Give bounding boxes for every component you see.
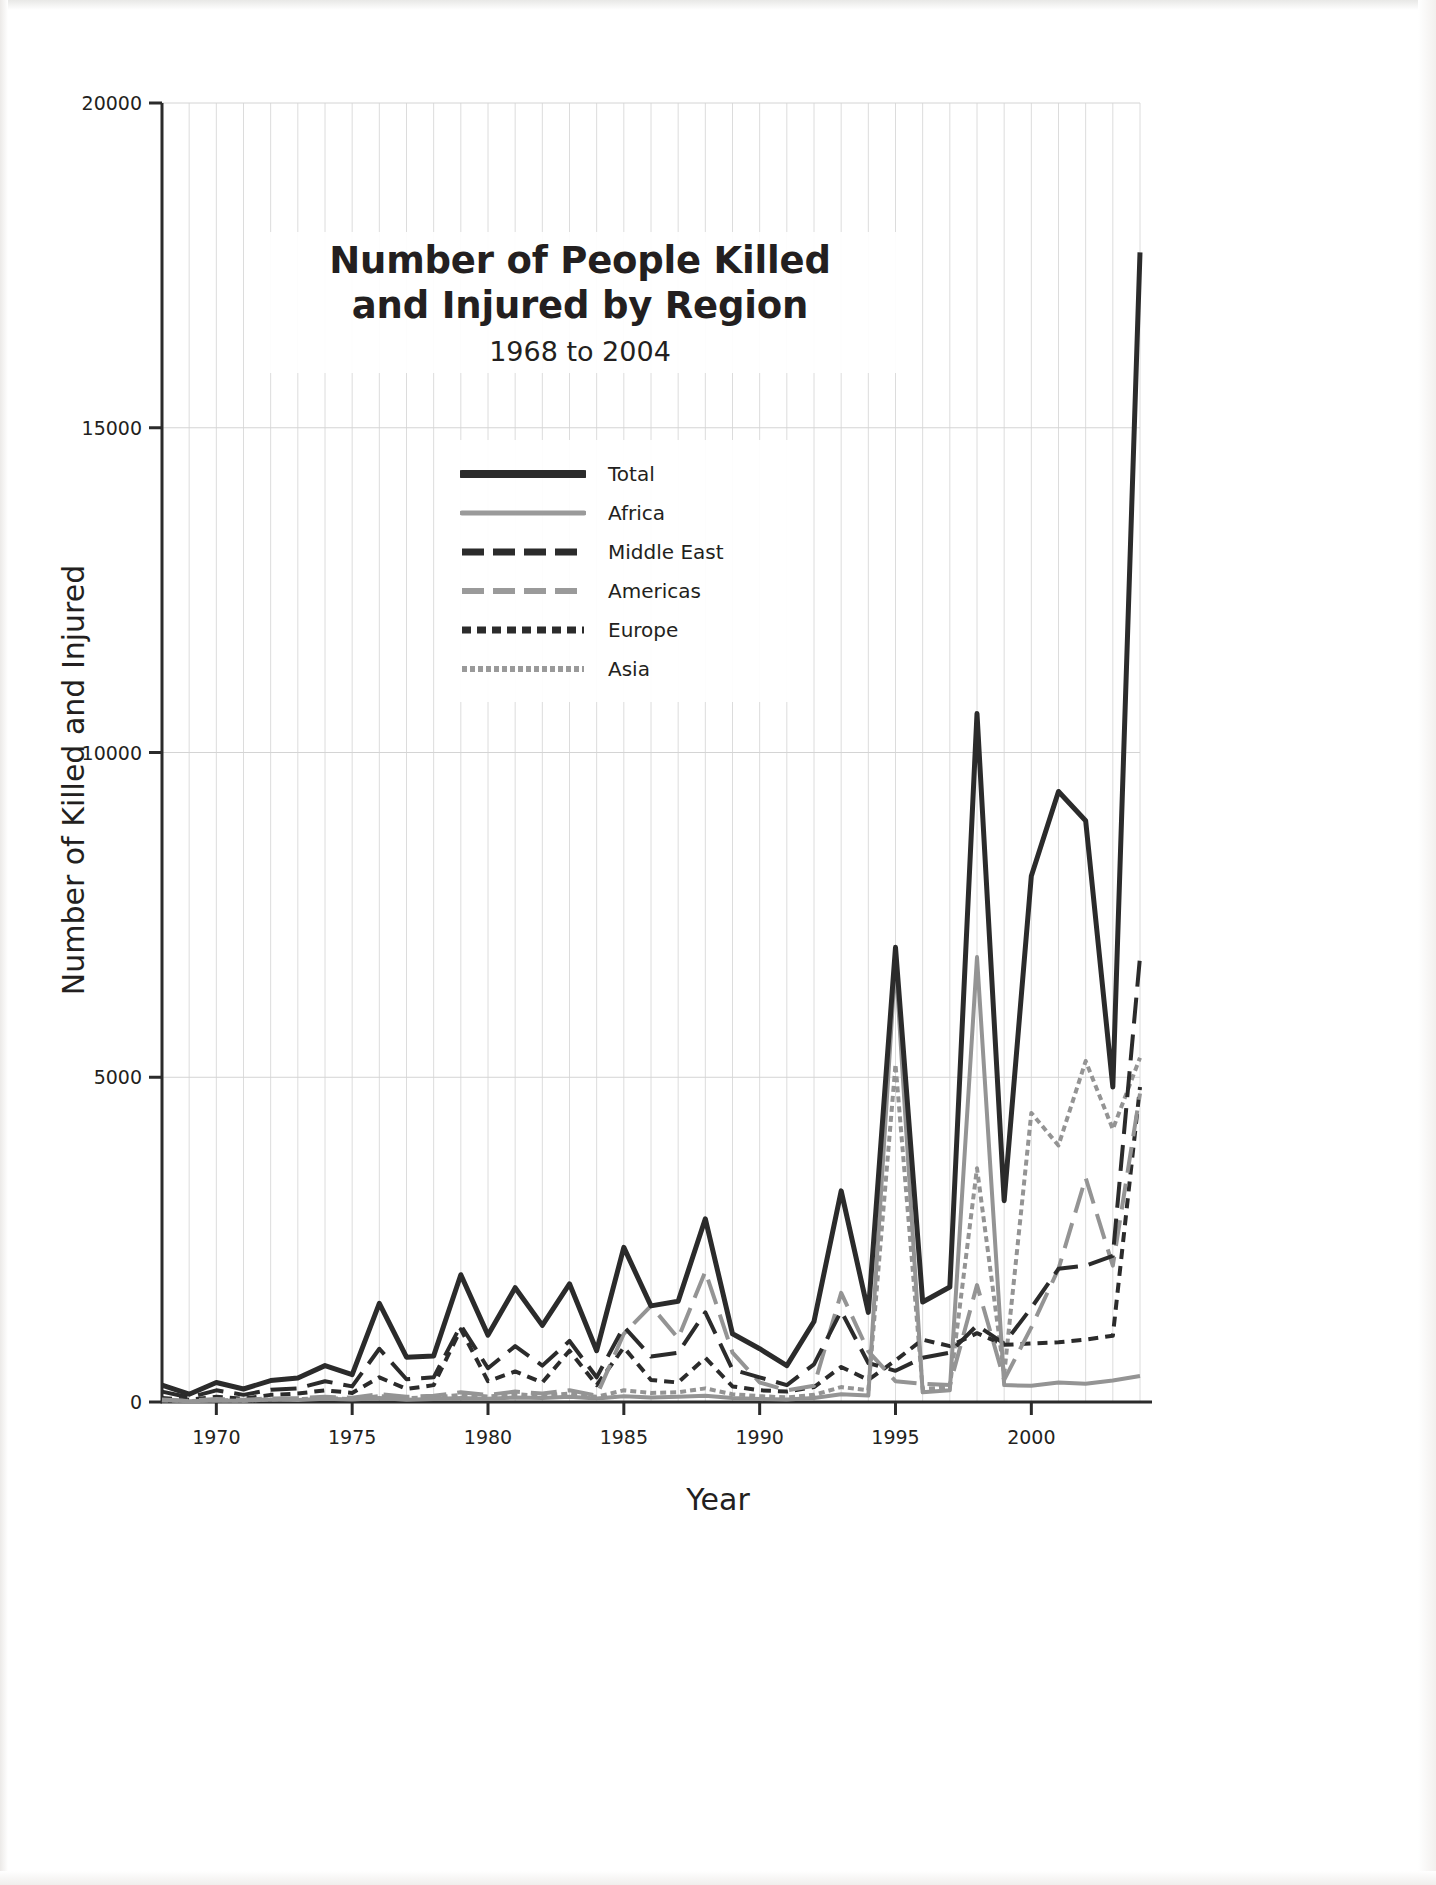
legend-item-americas[interactable]: Americas — [460, 571, 780, 610]
legend-item-asia[interactable]: Asia — [460, 649, 780, 688]
chart-figure: 0500010000150002000019701975198019851990… — [0, 0, 1436, 1885]
legend-swatch-total — [460, 464, 586, 484]
legend-label-americas: Americas — [608, 579, 701, 603]
x-tick-label: 1985 — [600, 1426, 648, 1448]
legend-label-total: Total — [608, 462, 655, 486]
x-tick-label: 1980 — [464, 1426, 512, 1448]
legend-swatch-asia — [460, 659, 586, 679]
legend-item-africa[interactable]: Africa — [460, 493, 780, 532]
page-title: Number of People Killed and Injured by R… — [250, 238, 910, 328]
y-tick-label: 20000 — [82, 92, 142, 114]
legend-swatch-americas — [460, 581, 586, 601]
x-tick-label: 1970 — [192, 1426, 240, 1448]
x-tick-label: 2000 — [1007, 1426, 1055, 1448]
legend-item-middle-east[interactable]: Middle East — [460, 532, 780, 571]
y-tick-label: 5000 — [94, 1066, 142, 1088]
legend-label-europe: Europe — [608, 618, 678, 642]
chart-subtitle: 1968 to 2004 — [250, 334, 910, 369]
page-canvas: 0500010000150002000019701975198019851990… — [0, 0, 1436, 1885]
y-tick-label: 15000 — [82, 417, 142, 439]
x-tick-label: 1995 — [871, 1426, 919, 1448]
legend-swatch-middle-east — [460, 542, 586, 562]
legend-label-middle-east: Middle East — [608, 540, 724, 564]
x-tick-label: 1975 — [328, 1426, 376, 1448]
legend-label-africa: Africa — [608, 501, 665, 525]
x-tick-label: 1990 — [735, 1426, 783, 1448]
legend-label-asia: Asia — [608, 657, 650, 681]
x-axis-label: Year — [0, 1482, 1436, 1517]
chart-title-block: Number of People Killed and Injured by R… — [250, 232, 910, 373]
chart-legend: Total Africa Middle East Americas — [452, 440, 790, 702]
legend-item-europe[interactable]: Europe — [460, 610, 780, 649]
y-tick-label: 10000 — [82, 742, 142, 764]
y-tick-label: 0 — [130, 1391, 142, 1413]
legend-swatch-europe — [460, 620, 586, 640]
legend-swatch-africa — [460, 503, 586, 523]
legend-item-total[interactable]: Total — [460, 454, 780, 493]
